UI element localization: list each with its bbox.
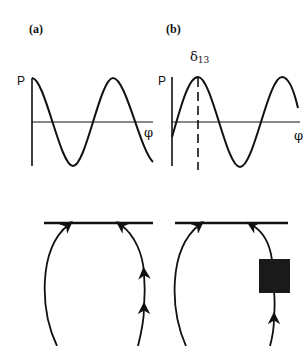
loop-diagram-a: [44, 223, 153, 346]
delta-symbol: δ: [190, 49, 198, 64]
right-branch-a-upper: [121, 225, 144, 273]
loop-diagram-b: [175, 223, 290, 346]
left-branch-b: [175, 225, 199, 346]
delta-subscript: 13: [198, 55, 209, 65]
right-branch-a-mid: [144, 273, 145, 308]
right-branch-b-upper: [252, 225, 272, 260]
right-branch-a-lower: [138, 308, 144, 346]
right-branch-b-mid: [274, 292, 275, 318]
right-branch-b-lower: [270, 318, 274, 346]
black-block: [259, 259, 290, 293]
graph-b: [172, 77, 300, 170]
y-axis-label-b: P: [158, 75, 166, 87]
figure-canvas: [0, 0, 306, 346]
left-branch-a: [45, 225, 68, 346]
graph-a: [32, 78, 153, 166]
x-axis-label-a: φ: [144, 126, 153, 139]
x-axis-label-b: φ: [294, 129, 303, 142]
panel-label-b: (b): [166, 23, 181, 35]
delta-13-label: δ13: [190, 50, 209, 65]
panel-label-a: (a): [29, 23, 43, 35]
y-axis-label-a: P: [17, 75, 25, 87]
